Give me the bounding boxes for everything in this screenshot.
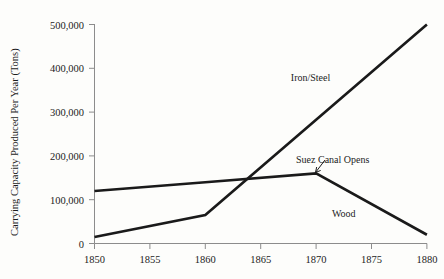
y-tick-label-100000: 100,000: [50, 195, 84, 206]
x-tick-label-1880: 1880: [416, 254, 437, 265]
y-tick-label-400000: 400,000: [50, 63, 84, 74]
series-line-iron-steel: [95, 25, 427, 237]
y-tick-label-500000: 500,000: [50, 20, 84, 31]
y-axis-title: Carrying Capacity Produced Per Year (Ton…: [9, 48, 21, 236]
y-tick-label-200000: 200,000: [50, 151, 84, 162]
x-tick-label-1860: 1860: [195, 254, 216, 265]
series-line-wood: [95, 173, 427, 234]
y-tick-label-300000: 300,000: [50, 107, 84, 118]
x-tick-label-1875: 1875: [361, 254, 382, 265]
x-axis-ticks: [95, 244, 427, 250]
x-tick-label-1865: 1865: [250, 254, 271, 265]
series-label-wood: Wood: [332, 208, 356, 219]
x-tick-label-1870: 1870: [306, 254, 327, 265]
y-axis-ticks: [89, 25, 95, 244]
y-tick-label-0: 0: [79, 239, 84, 250]
x-tick-label-1850: 1850: [84, 254, 105, 265]
series-label-iron-steel: Iron/Steel: [291, 72, 331, 83]
x-tick-label-1855: 1855: [139, 254, 160, 265]
annotation-label-suez-canal: Suez Canal Opens: [296, 154, 369, 165]
line-chart: 500,000 400,000 300,000 200,000 100,000 …: [0, 0, 444, 279]
chart-page: 500,000 400,000 300,000 200,000 100,000 …: [0, 0, 444, 279]
